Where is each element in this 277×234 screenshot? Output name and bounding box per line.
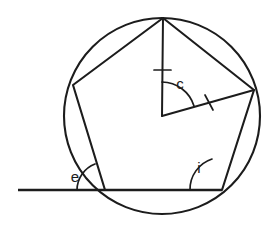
radius-to-apex xyxy=(162,18,163,116)
central-angle-label: c xyxy=(176,75,184,92)
exterior-angle-label: e xyxy=(71,168,79,185)
geometry-diagram: c e i xyxy=(0,0,277,234)
interior-angle-label: i xyxy=(197,159,200,176)
radius-to-upper-right-vertex xyxy=(162,90,254,116)
geometry-canvas: c e i xyxy=(0,0,277,234)
interior-angle-arc xyxy=(190,159,212,190)
